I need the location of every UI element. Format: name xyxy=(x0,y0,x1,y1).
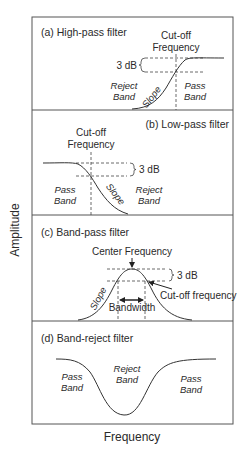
pass-band-label: Band xyxy=(180,384,203,395)
cutoff-label: Cut-off frequency xyxy=(160,290,237,301)
reject-band-label: Band xyxy=(113,91,136,102)
pass-band-label: Band xyxy=(184,91,207,102)
pass-band-label: Band xyxy=(54,195,77,206)
slope-label: Slope xyxy=(104,181,128,207)
pass-band-label: Band xyxy=(61,382,84,393)
panel-band-pass: (c) Band-pass filter Center Frequency 3 … xyxy=(41,226,237,321)
panel-title: (c) Band-pass filter xyxy=(41,226,130,238)
cutoff-label: Frequency xyxy=(67,139,114,150)
pass-band-label: Pass xyxy=(180,373,201,384)
panel-title: (d) Band-reject filter xyxy=(41,332,134,344)
cutoff-label: Cut-off xyxy=(161,30,191,41)
reject-band-label: Band xyxy=(116,374,139,385)
y-axis-label: Amplitude xyxy=(8,203,22,257)
cutoff-label: Cut-off xyxy=(76,127,106,138)
reject-band-label: Band xyxy=(138,195,161,206)
panel-title: (b) Low-pass filter xyxy=(146,118,230,130)
reject-band-label: Reject xyxy=(114,363,141,374)
db-brace xyxy=(169,269,174,281)
panel-band-reject: (d) Band-reject filter Pass Band Reject … xyxy=(41,332,216,415)
pass-band-label: Pass xyxy=(61,371,82,382)
db-brace xyxy=(139,58,145,72)
center-frequency-label: Center Frequency xyxy=(92,246,172,257)
pass-band-label: Pass xyxy=(184,80,205,91)
db-label: 3 dB xyxy=(177,270,198,281)
db-label: 3 dB xyxy=(139,164,160,175)
panel-title: (a) High-pass filter xyxy=(41,26,127,38)
x-axis-label: Frequency xyxy=(104,430,161,444)
pass-band-label: Pass xyxy=(54,184,75,195)
cutoff-arrow xyxy=(149,282,172,289)
bandwidth-label: Bandwidth xyxy=(109,302,156,313)
panel-high-pass: (a) High-pass filter Cut-off Frequency 3… xyxy=(41,26,224,110)
reject-band-label: Reject xyxy=(136,184,163,195)
panel-low-pass: (b) Low-pass filter Cut-off Frequency 3 … xyxy=(43,118,229,215)
db-label: 3 dB xyxy=(116,60,137,71)
cutoff-label: Frequency xyxy=(152,42,199,53)
reject-band-label: Reject xyxy=(111,80,138,91)
slope-label: Slope xyxy=(87,285,108,312)
filter-types-diagram: Amplitude Frequency (a) High-pass filter… xyxy=(0,0,251,457)
db-brace xyxy=(130,163,136,176)
